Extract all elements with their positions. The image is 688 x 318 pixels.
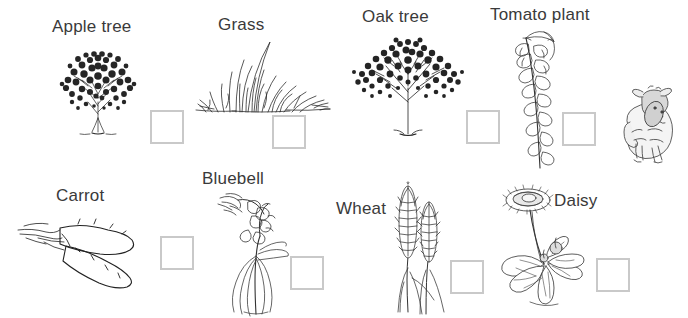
checkbox-apple-tree[interactable] [150,110,184,144]
oak-tree-icon [350,28,466,140]
carrot-icon [18,212,148,296]
daisy-icon [490,186,600,312]
checkbox-tomato-plant[interactable] [562,112,596,146]
item-label-tomato-plant: Tomato plant [490,6,590,23]
tomato-plant-icon [504,24,570,170]
checkbox-bluebell[interactable] [290,256,324,290]
item-label-oak-tree: Oak tree [362,8,429,25]
checkbox-oak-tree[interactable] [466,110,500,144]
item-label-bluebell: Bluebell [202,170,264,187]
sheep-icon [608,86,684,166]
item-label-grass: Grass [218,16,264,33]
item-label-apple-tree: Apple tree [52,18,132,35]
item-label-carrot: Carrot [56,187,104,204]
grass-icon [196,34,332,116]
checkbox-daisy[interactable] [596,258,630,292]
bluebell-icon [218,192,290,318]
checkbox-grass[interactable] [272,115,306,149]
item-label-wheat: Wheat [336,200,386,217]
checkbox-wheat[interactable] [450,260,484,294]
wheat-icon [392,182,452,316]
checkbox-carrot[interactable] [160,236,194,270]
apple-tree-icon [48,36,148,140]
worksheet-canvas: Apple tree [0,0,688,318]
